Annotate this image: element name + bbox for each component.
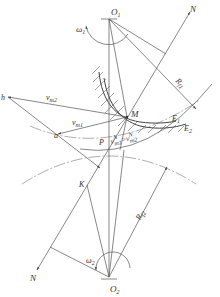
label-O2: O2 (110, 284, 120, 295)
label-Rf2: Rf2 (133, 209, 147, 223)
label-E1: E1 (171, 114, 180, 124)
label-E2: E2 (183, 124, 192, 134)
label-omega1: ω1 (76, 24, 85, 35)
label-O1: O1 (111, 7, 121, 18)
label-Rf1: Rf1 (172, 76, 187, 91)
label-h: h (1, 93, 5, 102)
label-P: P (98, 138, 104, 147)
O2-to-foot-N2 (50, 247, 109, 277)
label-omega2: ω2 (86, 256, 95, 266)
contact-point-M (126, 116, 128, 118)
Rf2-radius (109, 167, 167, 277)
label-vm2: vm2 (46, 93, 57, 103)
gear-contact-diagram: O1 ω1 N Rf1 h vm2 M E1 vm1 E2 a P vNm1=v… (0, 0, 220, 297)
label-K: K (78, 180, 85, 189)
label-vm1: vm1 (72, 118, 83, 128)
label-N-top: N (189, 4, 197, 14)
O2-to-M (109, 150, 124, 277)
omega1-arc (86, 26, 128, 45)
label-a: a (54, 131, 58, 140)
label-N-bottom: N (29, 273, 37, 283)
omega2-arc (96, 252, 130, 270)
Rf1-radius (109, 19, 196, 109)
vm1-vector (58, 117, 127, 134)
label-M: M (130, 109, 139, 119)
